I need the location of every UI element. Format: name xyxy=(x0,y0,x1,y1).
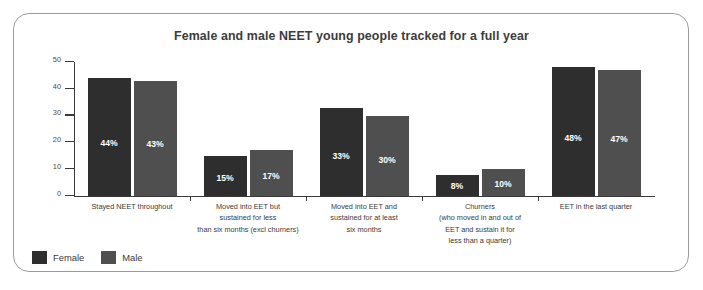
y-axis-tick: 30 xyxy=(65,114,74,115)
bar-male-4[interactable]: 47% xyxy=(598,70,641,196)
x-axis-category-label: Churners(who moved in and out ofEET and … xyxy=(413,201,547,247)
x-axis-category-label: EET in the last quarter xyxy=(529,201,663,212)
legend-item-male[interactable]: Male xyxy=(101,251,142,264)
x-axis-category-label: Moved into EET andsustained for at least… xyxy=(297,201,431,235)
bar-value-label: 44% xyxy=(88,138,131,148)
y-axis-tick-label: 50 xyxy=(53,55,61,64)
bar-female-0[interactable]: 44% xyxy=(88,78,131,196)
category-label-line: less than a quarter) xyxy=(413,235,547,246)
bar-male-0[interactable]: 43% xyxy=(134,81,177,196)
bar-female-4[interactable]: 48% xyxy=(552,67,595,196)
category-label-line: (who moved in and out of xyxy=(413,212,547,223)
y-axis-tick-label: 40 xyxy=(53,82,61,91)
bar-value-label: 47% xyxy=(598,134,641,144)
category-label-line: sustained for at least xyxy=(297,212,431,223)
bar-value-label: 33% xyxy=(320,151,363,161)
bar-male-2[interactable]: 30% xyxy=(366,116,409,196)
y-axis-tick-label: 30 xyxy=(53,108,61,117)
bar-male-3[interactable]: 10% xyxy=(482,169,525,196)
bar-value-label: 48% xyxy=(552,133,595,143)
y-axis-tick: 0 xyxy=(65,195,74,196)
bar-value-label: 17% xyxy=(250,171,293,181)
y-axis-tick-label: 10 xyxy=(53,162,61,171)
y-axis-tick: 40 xyxy=(65,88,74,89)
x-axis-category-label: Moved into EET butsustained for lessthan… xyxy=(181,201,315,235)
bar-value-label: 30% xyxy=(366,155,409,165)
legend-item-female[interactable]: Female xyxy=(32,251,84,264)
bar-value-label: 10% xyxy=(482,179,525,189)
category-label-line: Churners xyxy=(413,201,547,212)
bar-value-label: 43% xyxy=(134,139,177,149)
y-axis-tick: 20 xyxy=(65,141,74,142)
bar-value-label: 15% xyxy=(204,173,247,183)
category-label-line: sustained for less xyxy=(181,212,315,223)
legend-label-male: Male xyxy=(122,252,142,263)
bar-female-2[interactable]: 33% xyxy=(320,108,363,196)
category-label-line: Moved into EET but xyxy=(181,201,315,212)
category-label-line: six months xyxy=(297,224,431,235)
category-label-line: EET in the last quarter xyxy=(529,201,663,212)
chart-title: Female and male NEET young people tracke… xyxy=(0,29,703,43)
y-axis-tick-label: 0 xyxy=(57,189,61,198)
bar-female-3[interactable]: 8% xyxy=(436,175,479,196)
category-label-line: than six months (excl churners) xyxy=(181,224,315,235)
chart-figure: Female and male NEET young people tracke… xyxy=(0,0,703,290)
category-label-line: Stayed NEET throughout xyxy=(65,201,199,212)
bar-male-1[interactable]: 17% xyxy=(250,150,293,196)
category-label-line: EET and sustain it for xyxy=(413,224,547,235)
bar-value-label: 8% xyxy=(436,181,479,191)
y-axis-tick: 10 xyxy=(65,168,74,169)
y-axis-tick: 50 xyxy=(65,61,74,62)
legend-label-female: Female xyxy=(53,252,84,263)
bar-female-1[interactable]: 15% xyxy=(204,156,247,196)
plot-area: 0102030405044%43%15%17%33%30%8%10%48%47% xyxy=(74,62,654,196)
legend-swatch-male-icon xyxy=(101,251,116,264)
y-axis-tick-label: 20 xyxy=(53,135,61,144)
chart-legend: Female Male xyxy=(32,251,143,264)
legend-swatch-female-icon xyxy=(32,251,47,264)
category-label-line: Moved into EET and xyxy=(297,201,431,212)
x-axis-line xyxy=(74,196,655,197)
x-axis-category-label: Stayed NEET throughout xyxy=(65,201,199,212)
